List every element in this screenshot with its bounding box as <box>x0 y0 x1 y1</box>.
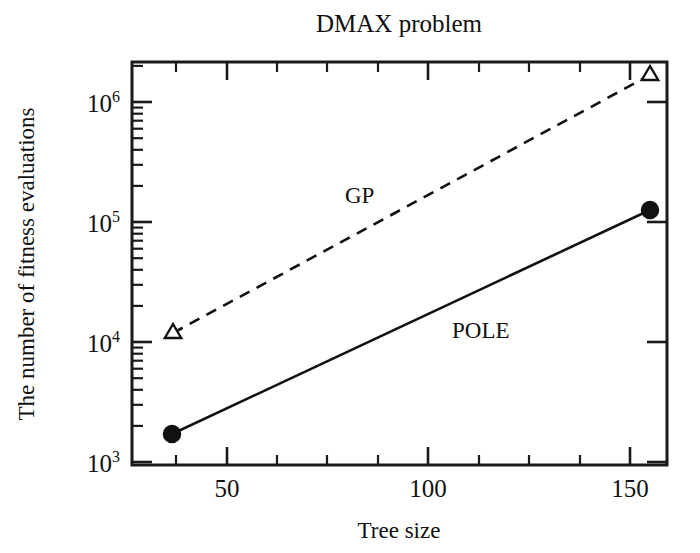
series-pole-marker-point-0 <box>164 426 181 443</box>
x-tick-label-50: 50 <box>215 475 240 502</box>
series-pole-marker-point-1 <box>642 202 659 219</box>
chart-title: DMAX problem <box>316 10 483 37</box>
series-label-pole: POLE <box>452 318 510 343</box>
x-tick-label-150: 150 <box>611 475 649 502</box>
chart-figure: DMAX problem <box>0 0 700 553</box>
x-tick-label-100: 100 <box>409 475 447 502</box>
series-label-gp: GP <box>345 183 374 208</box>
x-axis-title: Tree size <box>358 518 441 543</box>
chart-canvas: DMAX problem <box>0 0 700 553</box>
y-axis-title: The number of fitness evaluations <box>14 107 39 420</box>
